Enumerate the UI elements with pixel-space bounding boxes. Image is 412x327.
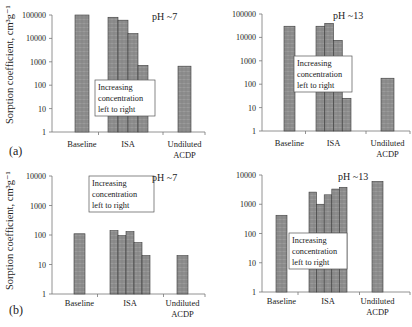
- category-label: Undiluted: [361, 296, 396, 306]
- y-tick-label: 10: [38, 105, 46, 114]
- category-label: ACDP: [173, 150, 196, 160]
- category-label: Undiluted: [166, 298, 201, 308]
- sorption-figure: 110100100010000100000BaselineISAUndilute…: [0, 0, 412, 327]
- y-tick-label: 1: [42, 290, 46, 299]
- annotation-text: concentration: [292, 247, 338, 256]
- bar: [118, 236, 126, 294]
- category-label: ACDP: [376, 149, 399, 159]
- category-label: Undiluted: [371, 138, 406, 148]
- annotation-text: Increasing: [292, 236, 327, 245]
- annotation-text: Increasing: [98, 83, 133, 92]
- y-tick-label: 10: [248, 259, 256, 268]
- category-label: ACDP: [366, 307, 389, 317]
- annotation-text: left to right: [292, 258, 330, 267]
- y-tick-label: 1000: [240, 200, 256, 209]
- y-tick-label: 10000: [236, 171, 256, 180]
- y-tick-label: 1: [252, 127, 256, 136]
- category-label: ISA: [123, 298, 138, 308]
- category-label: Baseline: [65, 298, 94, 308]
- chart-b-ph13: 110100100010000BaselineISAUndilutedACDPI…: [236, 171, 410, 317]
- category-label: Baseline: [67, 139, 96, 149]
- chart-a-ph13: 110100100010000100000BaselineISAUndilute…: [232, 10, 410, 159]
- chart-title: pH ~7: [152, 172, 177, 183]
- bar: [74, 234, 85, 294]
- chart-a-ph7: 110100100010000100000BaselineISAUndilute…: [22, 11, 205, 160]
- y-tick-label: 10: [38, 261, 46, 270]
- bar: [75, 15, 89, 132]
- annotation-text: left to right: [92, 201, 130, 210]
- category-label: Baseline: [267, 296, 296, 306]
- bar: [284, 26, 295, 131]
- y-tick-label: 10000: [26, 34, 46, 43]
- y-tick-label: 10000: [26, 172, 46, 181]
- category-label: ACDP: [171, 309, 194, 319]
- category-label: ISA: [321, 296, 336, 306]
- category-label: ISA: [121, 139, 136, 149]
- y-tick-label: 1000: [240, 57, 256, 66]
- annotation-text: Increasing: [297, 59, 332, 68]
- bar: [134, 243, 142, 294]
- annotation-text: concentration: [98, 94, 144, 103]
- y-tick-label: 1000: [30, 58, 46, 67]
- category-label: ISA: [327, 138, 342, 148]
- category-label: Undiluted: [168, 139, 203, 149]
- chart-title: pH ~13: [338, 171, 368, 182]
- bar: [372, 181, 383, 292]
- bar: [142, 256, 150, 294]
- category-label: Baseline: [275, 138, 304, 148]
- y-axis-label-b: Sorption coefficient, cm³g⁻¹: [3, 171, 15, 290]
- bar: [276, 215, 287, 292]
- annotation-text: concentration: [297, 70, 343, 79]
- y-tick-label: 100: [34, 231, 46, 240]
- bar: [126, 232, 134, 294]
- panel-label-b: (b): [9, 303, 23, 318]
- bar: [381, 78, 394, 131]
- y-tick-label: 1000: [30, 202, 46, 211]
- annotation-text: left to right: [297, 81, 335, 90]
- y-tick-label: 10000: [236, 33, 256, 42]
- y-tick-label: 100000: [232, 10, 256, 19]
- y-tick-label: 10: [248, 104, 256, 113]
- bar: [177, 256, 188, 294]
- y-tick-label: 1: [252, 288, 256, 297]
- panel-label-a: (a): [9, 144, 22, 159]
- bar: [178, 66, 191, 132]
- bar: [342, 98, 351, 131]
- bar: [110, 231, 118, 294]
- sorption-charts-svg: 110100100010000100000BaselineISAUndilute…: [0, 0, 412, 327]
- y-tick-label: 100: [244, 80, 256, 89]
- annotation-text: Increasing: [92, 179, 127, 188]
- annotation-text: concentration: [92, 190, 138, 199]
- y-tick-label: 100: [244, 230, 256, 239]
- chart-title: pH ~7: [152, 11, 177, 22]
- y-tick-label: 100: [34, 81, 46, 90]
- y-tick-label: 100000: [22, 11, 46, 20]
- y-tick-label: 1: [42, 128, 46, 137]
- annotation-text: left to right: [98, 105, 136, 114]
- chart-b-ph7: 110100100010000BaselineISAUndilutedACDPI…: [26, 172, 205, 319]
- y-axis-label-a: Sorption coefficient, cm³g⁻¹: [3, 5, 15, 124]
- chart-title: pH ~13: [333, 10, 363, 21]
